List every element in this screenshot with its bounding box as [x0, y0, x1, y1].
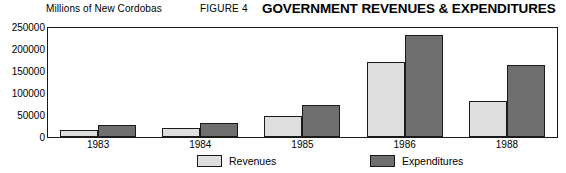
x-axis-tick-label: 1983 [47, 139, 149, 151]
x-axis-tick-label: 1984 [149, 139, 251, 151]
bar-group [354, 28, 456, 137]
x-axis: 19831984198519861988 [47, 139, 558, 153]
x-axis-tick-label: 1986 [354, 139, 456, 151]
bar-expenditures-1985 [302, 105, 340, 137]
bar-revenues-1985 [264, 116, 302, 137]
legend-swatch-icon [370, 155, 395, 167]
bar-expenditures-1986 [405, 35, 443, 136]
chart-header: Millions of New Cordobas FIGURE 4 GOVERN… [0, 0, 566, 20]
chart-figure: Millions of New Cordobas FIGURE 4 GOVERN… [0, 0, 566, 173]
y-axis-tick-label: 250000 [0, 23, 45, 33]
y-axis-unit-label: Millions of New Cordobas [46, 3, 162, 14]
bar-groups [47, 27, 558, 138]
y-axis-tick-label: 200000 [0, 45, 45, 55]
legend-label: Expenditures [402, 155, 463, 167]
y-axis-tick-label: 150000 [0, 67, 45, 77]
y-axis: 050000100000150000200000250000 [0, 20, 45, 145]
legend-label: Revenues [229, 155, 276, 167]
figure-number-label: FIGURE 4 [200, 3, 248, 14]
y-axis-tick-label: 100000 [0, 89, 45, 99]
bar-expenditures-1988 [507, 65, 545, 136]
bar-revenues-1983 [60, 130, 98, 136]
bar-group [47, 28, 149, 137]
bar-revenues-1986 [367, 62, 405, 136]
y-axis-tick-label: 50000 [0, 111, 45, 121]
x-axis-tick-label: 1985 [251, 139, 353, 151]
legend-item-expenditures[interactable]: Expenditures [370, 154, 463, 168]
bar-group [149, 28, 251, 137]
bar-revenues-1984 [162, 128, 200, 137]
bar-expenditures-1984 [200, 123, 238, 137]
bar-expenditures-1983 [98, 125, 136, 137]
x-axis-tick-label: 1988 [456, 139, 558, 151]
bar-revenues-1988 [469, 101, 507, 137]
legend-swatch-icon [197, 155, 222, 167]
bar-group [456, 28, 558, 137]
y-axis-tick-label: 0 [0, 133, 45, 143]
legend-item-revenues[interactable]: Revenues [197, 154, 276, 168]
chart-title: GOVERNMENT REVENUES & EXPENDITURES [262, 1, 556, 16]
chart-legend: RevenuesExpenditures [0, 154, 566, 170]
bar-group [251, 28, 353, 137]
